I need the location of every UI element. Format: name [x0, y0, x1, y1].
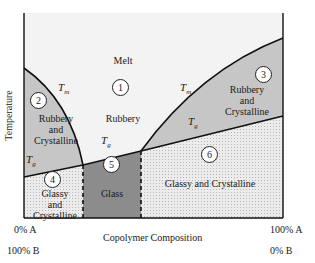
region-6-number: 6: [201, 146, 218, 163]
tm-label-left: Tm: [58, 82, 69, 98]
region-3-label: RubberyandCrystalline: [217, 84, 277, 117]
x-right-percent-b: 0% B: [270, 245, 293, 256]
region-4-number: 4: [44, 171, 61, 188]
region-4-label: GlassyandCrystalline: [26, 188, 84, 221]
tg-label-center: Tg: [101, 135, 111, 151]
region-5-number: 5: [103, 156, 120, 173]
region-6-label: Glassy and Crystalline: [160, 178, 260, 189]
phase-diagram: Temperature Melt 1 Rubbery Tm Tm Tg Tg T…: [0, 0, 315, 263]
region-2-number: 2: [30, 92, 47, 109]
region-1-sublabel: Rubbery: [98, 113, 148, 124]
x-right-percent-a: 100% A: [270, 224, 303, 235]
region-2-label: RubberyandCrystalline: [26, 113, 86, 146]
tm-label-right: Tm: [180, 82, 191, 98]
tg-label-left: Tg: [26, 154, 36, 170]
tg-label-right: Tg: [188, 116, 198, 132]
y-axis-label: Temperature: [3, 86, 14, 146]
x-axis-label: Copolymer Composition: [103, 232, 202, 243]
region-1-label: Melt: [108, 55, 138, 66]
x-left-percent-b: 100% B: [7, 245, 40, 256]
region-5-label: Glass: [92, 188, 132, 199]
region-3-number: 3: [255, 66, 272, 83]
x-left-percent-a: 0% A: [14, 224, 37, 235]
region-1-number: 1: [112, 79, 129, 96]
